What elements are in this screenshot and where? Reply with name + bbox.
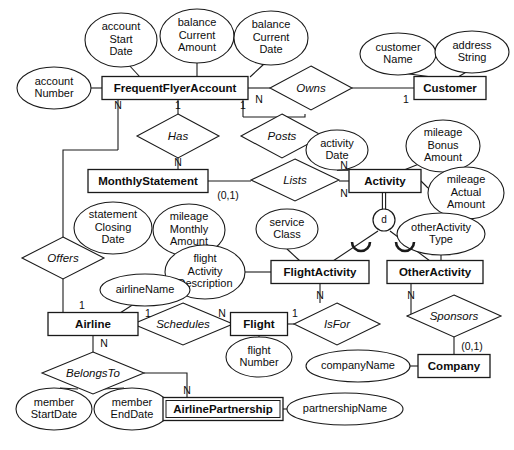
attribute-label-line: StartDate [31,408,77,420]
relationship-label: Schedules [156,318,210,330]
relationship-label: Posts [268,130,297,142]
cardinality-airline-belongs-N: N [100,337,108,349]
attribute-airlinename[interactable]: airlineName [100,274,190,306]
relationship-label: Has [168,130,189,142]
attribute-label-line: otherActivity [411,221,471,233]
entity-frequentflyeraccount[interactable]: FrequentFlyerAccount [102,77,248,100]
attribute-label-line: Monthly [170,223,209,235]
cardinality-owns-cust-1: 1 [403,93,409,105]
attribute-label-line: mileage [447,173,486,185]
attribute-label-line: Date [101,233,124,245]
relationship-sponsors[interactable]: Sponsors [407,295,501,337]
attribute-label-line: Amount [424,151,462,163]
cardinality-ffa-posts-1: 1 [240,99,246,111]
attribute-label-line: Activity [188,265,223,277]
attribute-label-line: balance [252,18,291,30]
attribute-flightnumber[interactable]: flightNumber [226,337,292,377]
relationship-isfor[interactable]: IsFor [294,303,380,345]
cardinality-has-ms-N: N [174,156,182,168]
entity-monthlystatement[interactable]: MonthlyStatement [88,170,208,193]
attribute-label-line: partnershipName [303,402,387,414]
attribute-label-line: account [35,75,74,87]
attribute-label-line: balance [178,16,217,28]
entity-activity[interactable]: Activity [349,170,421,193]
attribute-label-line: mileage [170,210,209,222]
entity-label: Flight [243,318,274,330]
specialization-symbol: d [381,214,387,225]
relationship-label: Lists [283,174,307,186]
cardinality-ffa-owns-N: N [255,93,263,105]
attribute-label-line: Current [253,31,290,43]
cardinality-ffa-offers-N: N [114,99,122,111]
entity-label: Company [428,360,481,372]
cardinality-ms-lists-01: (0,1) [217,189,239,201]
attribute-accountnumber[interactable]: accountNumber [17,67,91,109]
edge-serviceclass [287,249,300,261]
attribute-label-line: Class [273,228,301,240]
edge-ffa-posts [243,114,305,117]
attribute-label-line: Closing [95,221,132,233]
entity-label: Airline [75,318,111,330]
relationship-has[interactable]: Has [137,114,219,158]
attribute-label-line: companyName [321,359,395,371]
attribute-serviceclass[interactable]: serviceClass [256,209,318,249]
attribute-label-line: activity [320,137,354,149]
entity-airline[interactable]: Airline [48,313,138,336]
attribute-companyname[interactable]: companyName [306,350,410,382]
edge-mileageactualamount [421,181,428,188]
entity-flight[interactable]: Flight [231,313,288,336]
entity-label: OtherActivity [399,266,472,278]
cardinality-ap-belongs-N: N [183,384,191,396]
entity-label: Activity [364,175,406,187]
attribute-label-line: customer [375,41,421,53]
attribute-label-line: EndDate [111,408,154,420]
attribute-label-line: Name [383,53,412,65]
relationship-owns[interactable]: Owns [270,66,352,110]
attribute-label-line: Bonus [427,139,459,151]
attribute-label-line: Actual [451,186,482,198]
cardinality-lists-act-N: N [340,187,348,199]
relationship-label: IsFor [324,318,351,330]
attribute-label-line: member [34,396,75,408]
attribute-label-line: account [102,20,141,32]
entity-customer[interactable]: Customer [414,77,486,100]
cardinality-ffa-has-1: 1 [175,99,181,111]
attribute-memberenddate[interactable]: memberEndDate [94,388,170,430]
attribute-label-line: Start [109,33,132,45]
entity-airlinepartnership[interactable]: AirlinePartnership [163,398,283,421]
cardinality-flight-sched-N: N [218,307,226,319]
attribute-label-line: member [112,396,153,408]
attribute-mileageactualamount[interactable]: mileageActualAmount [428,167,504,219]
attribute-memberstartdate[interactable]: memberStartDate [16,388,92,430]
entity-label: Customer [423,82,477,94]
attribute-customername[interactable]: customerName [360,33,436,75]
er-diagram-svg: OwnsHasPostsListsOffersSchedulesIsForSpo… [0,0,514,450]
attribute-balancecurrentdate[interactable]: balanceCurrentDate [234,11,308,65]
attribute-label-line: statement [89,208,137,220]
cardinality-company-01: (0,1) [461,340,483,352]
edge-spec-flightactivity [333,231,378,261]
er-diagram-canvas: OwnsHasPostsListsOffersSchedulesIsForSpo… [0,0,514,450]
cardinality-airline-offers-1: 1 [79,299,85,311]
entity-company[interactable]: Company [418,355,490,378]
attribute-label-line: address [452,39,492,51]
subset-arc-icon [352,242,370,251]
attribute-label-line: Date [109,45,132,57]
attribute-label-line: Number [34,87,73,99]
attribute-activitydate[interactable]: activityDate [306,130,368,170]
attribute-addressstring[interactable]: addressString [435,31,509,73]
attribute-label-line: Amount [178,41,216,53]
attribute-accountstartdate[interactable]: accountStartDate [85,13,157,67]
edge-balancecurrentdate [250,64,264,77]
attribute-label-line: Type [429,233,453,245]
attribute-label-line: flight [193,252,216,264]
relationship-label: Sponsors [430,310,479,322]
attribute-balancecurrentamount[interactable]: balanceCurrentAmount [160,9,234,63]
attribute-partnershipname[interactable]: partnershipName [287,393,403,425]
attribute-mileagebonusamount[interactable]: mileageBonusAmount [406,120,480,172]
attribute-statementclosingdate[interactable]: statementClosingDate [74,202,152,254]
cardinality-posts-act-N: N [340,159,348,171]
attribute-label-line: Number [239,356,278,368]
entity-flightactivity[interactable]: FlightActivity [271,261,369,284]
entity-otheractivity[interactable]: OtherActivity [387,261,483,284]
